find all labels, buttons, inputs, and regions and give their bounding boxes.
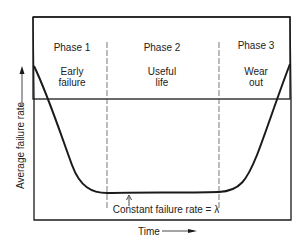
phase-1-desc-1: Early [50, 66, 94, 77]
phase-3-desc-2: out [234, 77, 278, 88]
phase-2-desc-2: life [140, 77, 184, 88]
phase-3-label: Phase 3 [234, 40, 278, 51]
y-axis-label: Average failure rate [15, 96, 26, 196]
x-axis-label: Time [136, 226, 162, 237]
phase-3-desc-1: Wear [234, 66, 278, 77]
plot-frame [34, 98, 291, 220]
constant-rate-annotation: Constant failure rate = λ [106, 204, 226, 215]
phase-2-desc-1: Useful [140, 66, 184, 77]
phase-1-desc-2: failure [50, 77, 94, 88]
phase-1-label: Phase 1 [50, 42, 94, 53]
phase-2-label: Phase 2 [140, 42, 184, 53]
